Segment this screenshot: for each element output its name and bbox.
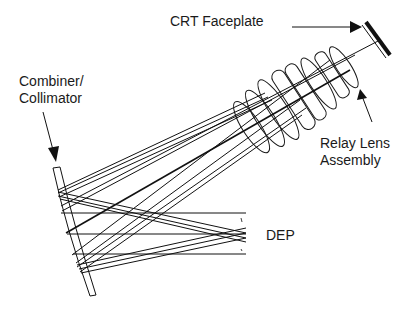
- combiner-label-line2: Collimator: [19, 90, 82, 107]
- arrow-icon: [292, 21, 362, 33]
- relay-lens-label-line1: Relay Lens: [320, 135, 390, 152]
- arrow-icon: [43, 112, 59, 162]
- crt-faceplate-label: CRT Faceplate: [170, 13, 264, 30]
- combiner-collimator: [53, 167, 96, 296]
- dep-label: DEP: [266, 227, 295, 244]
- relay-lens-label-line2: Assembly: [320, 152, 381, 169]
- combiner-label-line1: Combiner/: [19, 73, 84, 90]
- crt-faceplate: [362, 22, 390, 58]
- arrow-icon: [357, 89, 372, 122]
